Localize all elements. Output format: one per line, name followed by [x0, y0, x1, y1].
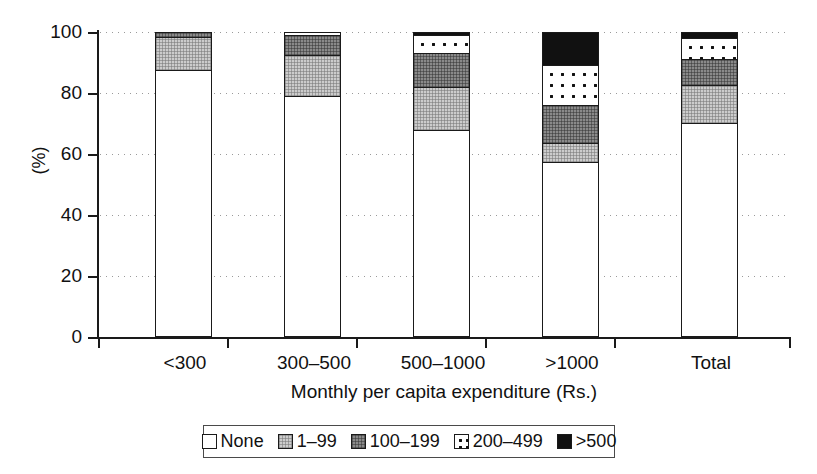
x-label-gt1000: >1000 [512, 352, 632, 374]
segment-1-99 [543, 144, 598, 164]
legend-item-none[interactable]: None [202, 431, 264, 452]
y-tick-60 [88, 154, 98, 156]
x-label-500-1000: 500–1000 [383, 352, 503, 374]
segment-1-99 [285, 56, 340, 97]
y-tick-label-0: 0 [22, 327, 82, 346]
x-label-total: Total [651, 352, 771, 374]
legend-item-gt500[interactable]: >500 [557, 431, 617, 452]
x-label-lt300: <300 [125, 352, 245, 374]
y-axis-title: (%) [29, 116, 50, 206]
plot-area [98, 32, 790, 337]
segment-200-499 [543, 66, 598, 105]
segment-none [156, 71, 211, 336]
y-tick-100 [88, 32, 98, 34]
segment-none [414, 131, 469, 336]
legend-item-1-99[interactable]: 1–99 [278, 431, 337, 452]
segment-1-99 [414, 88, 469, 132]
x-tick-1 [227, 339, 229, 348]
x-tick-2 [356, 339, 358, 348]
legend-swatch-none-icon [202, 434, 217, 449]
segment-none [682, 124, 737, 336]
legend-item-100-199[interactable]: 100–199 [351, 431, 440, 452]
y-tick-label-40: 40 [22, 205, 82, 224]
segment-none [285, 97, 340, 336]
segment-gt500 [543, 33, 598, 66]
x-tick-3 [485, 339, 487, 348]
y-tick-0 [88, 337, 98, 339]
segment-100-199 [682, 60, 737, 86]
legend-label-none: None [221, 431, 264, 452]
legend-swatch-100-199-icon [351, 434, 366, 449]
segment-none [543, 163, 598, 336]
legend-swatch-1-99-icon [278, 434, 293, 449]
y-tick-80 [88, 93, 98, 95]
segment-200-499 [414, 36, 469, 54]
x-axis-title: Monthly per capita expenditure (Rs.) [98, 381, 790, 403]
segment-100-199 [543, 106, 598, 144]
bar-total[interactable] [681, 32, 738, 337]
legend: None 1–99 100–199 200–499 >500 [203, 425, 615, 458]
y-tick-40 [88, 215, 98, 217]
x-label-300-500: 300–500 [254, 352, 374, 374]
x-tick-5 [789, 339, 791, 348]
bar-300-500[interactable] [284, 32, 341, 337]
y-tick-label-100: 100 [22, 22, 82, 41]
bar-gt1000[interactable] [542, 32, 599, 337]
y-tick-label-20: 20 [22, 266, 82, 285]
legend-swatch-200-499-icon [454, 434, 469, 449]
x-axis-line [97, 337, 791, 339]
bar-500-1000[interactable] [413, 32, 470, 337]
y-tick-label-80: 80 [22, 83, 82, 102]
segment-1-99 [156, 38, 211, 71]
segment-100-199 [414, 54, 469, 87]
legend-swatch-gt500-icon [557, 434, 572, 449]
legend-label-200-499: 200–499 [473, 431, 543, 452]
legend-label-1-99: 1–99 [297, 431, 337, 452]
bar-lt300[interactable] [155, 32, 212, 337]
segment-1-99 [682, 86, 737, 124]
stacked-bar-chart: 100 80 60 40 20 0 (%) [0, 0, 817, 474]
legend-label-100-199: 100–199 [370, 431, 440, 452]
x-tick-4 [614, 339, 616, 348]
legend-label-gt500: >500 [576, 431, 617, 452]
legend-item-200-499[interactable]: 200–499 [454, 431, 543, 452]
segment-200-499 [682, 39, 737, 60]
x-tick-0 [98, 339, 100, 348]
y-tick-20 [88, 276, 98, 278]
segment-100-199 [285, 36, 340, 56]
